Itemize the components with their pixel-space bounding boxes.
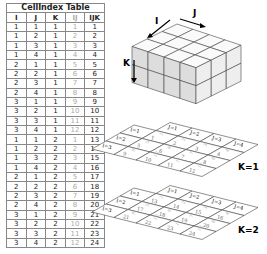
table-cell: 3 — [85, 41, 105, 50]
table-cell: 2 — [26, 32, 46, 41]
table-row: 3411212 — [7, 126, 105, 135]
table-cell: 2 — [46, 210, 66, 219]
table-cell: 2 — [46, 182, 66, 191]
table-cell: 2 — [7, 182, 27, 191]
table-cell: 2 — [65, 144, 85, 153]
svg-text:7: 7 — [189, 213, 195, 218]
table-cell: 2 — [7, 79, 27, 88]
table-cell: 8 — [65, 201, 85, 210]
table-cell: 13 — [85, 135, 105, 144]
table-cell: 24 — [85, 238, 105, 247]
cellindex-table: CellIndex Table IJKIJIJK 111111212213133… — [6, 3, 105, 248]
table-cell: 2 — [46, 191, 66, 200]
table-cell: 12 — [65, 238, 85, 247]
table-cell: 19 — [85, 191, 105, 200]
table-cell: 1 — [7, 163, 27, 172]
svg-text:7: 7 — [180, 153, 185, 160]
svg-text:10: 10 — [153, 150, 160, 158]
table-cell: 3 — [26, 79, 46, 88]
table-cell: 2 — [46, 219, 66, 228]
table-cell: 9 — [85, 97, 105, 106]
table-cell: 20 — [85, 201, 105, 210]
table-cell: 7 — [65, 79, 85, 88]
table-row: 3221022 — [7, 219, 105, 228]
table-cell: 1 — [7, 154, 27, 163]
table-cell: 2 — [46, 163, 66, 172]
table-cell: 3 — [7, 229, 27, 238]
table-cell: 2 — [46, 238, 66, 247]
svg-text:13: 13 — [150, 197, 158, 204]
table-cell: 2 — [46, 135, 66, 144]
svg-text:15: 15 — [194, 208, 202, 215]
table-cell: 1 — [46, 79, 66, 88]
table-cell: 8 — [65, 88, 85, 97]
table-cell: 1 — [46, 50, 66, 59]
table-cell: 6 — [65, 69, 85, 78]
table-row: 14144 — [7, 50, 105, 59]
svg-text:17: 17 — [136, 205, 144, 212]
table-cell: 3 — [26, 41, 46, 50]
svg-text:8: 8 — [211, 219, 217, 224]
svg-text:4: 4 — [216, 151, 221, 158]
svg-text:4: 4 — [225, 148, 231, 153]
table-cell: 1 — [65, 22, 85, 31]
column-label: J=2 — [188, 192, 200, 201]
svg-text:23: 23 — [166, 224, 174, 231]
table-cell: 4 — [26, 88, 46, 97]
column-label: J=4 — [232, 140, 244, 149]
table-cell: 2 — [46, 229, 66, 238]
svg-text:2: 2 — [181, 137, 187, 142]
table-cell: 4 — [26, 50, 46, 59]
table-cell: 3 — [65, 41, 85, 50]
table-row: 222618 — [7, 182, 105, 191]
svg-text:6: 6 — [158, 148, 163, 155]
column-label: J=3 — [210, 134, 222, 143]
table-row: 22166 — [7, 69, 105, 78]
table-cell: 5 — [65, 60, 85, 69]
table-row: 13133 — [7, 41, 105, 50]
table-cell: 1 — [46, 69, 66, 78]
table-row: 112113 — [7, 135, 105, 144]
svg-text:8: 8 — [202, 159, 207, 166]
table-cell: 11 — [85, 116, 105, 125]
table-cell: 17 — [85, 173, 105, 182]
column-header: IJK — [85, 13, 105, 22]
table-cell: 12 — [65, 126, 85, 135]
table-cell: 5 — [85, 60, 105, 69]
table-cell: 3 — [7, 107, 27, 116]
table-cell: 3 — [65, 154, 85, 163]
svg-text:19: 19 — [180, 216, 188, 223]
table-cell: 11 — [65, 116, 85, 125]
table-cell: 3 — [7, 97, 27, 106]
column-label: J=2 — [188, 129, 200, 138]
table-row: 142416 — [7, 163, 105, 172]
table-cell: 1 — [7, 32, 27, 41]
svg-text:2: 2 — [172, 140, 177, 147]
table-cell: 2 — [7, 88, 27, 97]
table-cell: 10 — [85, 107, 105, 116]
table-row: 3421224 — [7, 238, 105, 247]
table-cell: 1 — [46, 88, 66, 97]
table-row: 212517 — [7, 173, 105, 182]
table-cell: 23 — [85, 229, 105, 238]
table-cell: 1 — [26, 97, 46, 106]
table-cell: 3 — [7, 219, 27, 228]
svg-text:11: 11 — [175, 219, 182, 227]
svg-text:5: 5 — [136, 142, 141, 149]
table-cell: 7 — [85, 79, 105, 88]
svg-text:21: 21 — [122, 213, 130, 220]
table-cell: 3 — [7, 116, 27, 125]
svg-text:5: 5 — [145, 139, 151, 144]
table-cell: 5 — [65, 173, 85, 182]
table-row: 132315 — [7, 154, 105, 163]
table-row: 24188 — [7, 88, 105, 97]
row-label: I=1 — [130, 126, 141, 134]
table-cell: 2 — [85, 32, 105, 41]
table-cell: 11 — [65, 229, 85, 238]
table-cell: 22 — [85, 219, 105, 228]
row-label: I=2 — [116, 134, 127, 142]
table-cell: 1 — [65, 135, 85, 144]
svg-text:22: 22 — [144, 219, 152, 226]
svg-text:18: 18 — [158, 211, 166, 218]
table-cell: 4 — [85, 50, 105, 59]
